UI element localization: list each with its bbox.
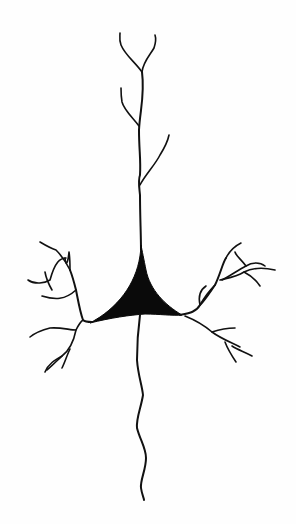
neuron-illustration	[0, 0, 296, 524]
basal-dendrites-right	[180, 243, 275, 362]
soma	[90, 245, 182, 323]
neuron-drawing	[0, 0, 296, 524]
basal-dendrites-left	[28, 242, 92, 372]
axon	[137, 315, 146, 500]
apical-dendrite	[120, 33, 169, 250]
